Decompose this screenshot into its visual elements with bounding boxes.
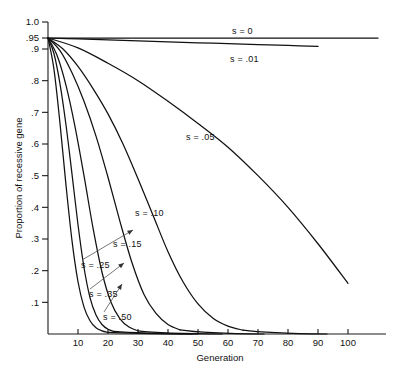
x-tick-label: 50 [193, 337, 204, 348]
y-tick-label: .5 [31, 170, 39, 181]
axes [48, 22, 386, 334]
y-tick-label: .1 [31, 297, 39, 308]
x-tick-label: 90 [313, 337, 324, 348]
curve-s-0p1 [48, 38, 243, 330]
y-tick-label: 1.0 [26, 16, 39, 27]
leader-arrowhead [127, 230, 133, 235]
curve-label-s-0p5: s = .50 [103, 312, 132, 322]
curve-label-s-0: s = 0 [232, 26, 253, 36]
x-tick-label: 60 [223, 337, 234, 348]
y-tick-label: .4 [31, 202, 39, 213]
x-tick-label: 30 [133, 337, 144, 348]
curve-s-0p05 [48, 38, 348, 283]
curve-label-s-0p05: s = .05 [186, 132, 215, 142]
curve-label-s-0p25: s = .25 [81, 260, 110, 270]
y-tick-label: .7 [31, 107, 39, 118]
y-axis-title: Proportion of recessive gene [13, 118, 24, 239]
x-tick-label: 10 [73, 337, 84, 348]
y-tick-label: .3 [31, 233, 39, 244]
x-tick-label: 100 [340, 337, 356, 348]
leader-arrowhead [117, 284, 122, 290]
curve-s-0p01 [48, 38, 318, 46]
y-tick-label: .95 [26, 32, 39, 43]
x-tick-label: 70 [253, 337, 264, 348]
x-tick-label: 20 [103, 337, 114, 348]
curve-label-s-0p35: s = .35 [89, 289, 118, 299]
curve-s-0p35 [48, 38, 114, 331]
curve-label-s-0p1: s = .10 [135, 208, 164, 218]
y-tick-label: .2 [31, 265, 39, 276]
y-axis-ticks: 1.0.95.9.8.7.6.5.4.3.2.1 [26, 16, 48, 307]
leader-arrowhead [118, 263, 124, 268]
x-tick-label: 80 [283, 337, 294, 348]
curve-label-s-0p15: s = .15 [113, 239, 142, 249]
curve-s-0p15 [48, 38, 180, 330]
x-tick-label: 40 [163, 337, 174, 348]
x-axis-title: Generation [196, 352, 243, 363]
curve-label-s-0p01: s = .01 [230, 54, 259, 64]
y-tick-label: .9 [31, 43, 39, 54]
y-tick-label: .8 [31, 75, 39, 86]
y-tick-label: .6 [31, 138, 39, 149]
gene-frequency-chart: 1.0.95.9.8.7.6.5.4.3.2.1 102030405060708… [0, 0, 396, 372]
chart-svg: 1.0.95.9.8.7.6.5.4.3.2.1 102030405060708… [0, 0, 396, 372]
